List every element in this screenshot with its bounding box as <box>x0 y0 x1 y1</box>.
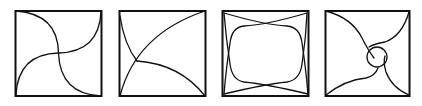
panel-1-arc-bottom <box>59 53 102 96</box>
panel-2 <box>120 11 206 96</box>
panel-3-curve-top-b <box>224 13 307 94</box>
panel-2-arc-from-top-left <box>120 16 137 61</box>
panel-1-arc-right <box>59 12 102 53</box>
panel-4-curve-top-right <box>369 12 409 47</box>
panel-4 <box>326 11 410 96</box>
panel-1-arc-top <box>16 11 59 53</box>
panel-2-arc-to-bottom-right <box>137 61 205 96</box>
panel-1 <box>16 11 102 96</box>
panel-4-central-loop <box>367 47 387 67</box>
panel-4-curve-bottom-left <box>326 68 378 95</box>
panel-3-curve-bottom-a <box>224 13 307 94</box>
panel-4-curve-top-left <box>326 11 374 58</box>
panel-3-curve-top-a <box>224 13 308 94</box>
panel-4-curve-bottom-right <box>384 56 409 95</box>
panel-3-curve-bottom-b <box>224 13 308 94</box>
panel-1-arc-left <box>16 53 59 95</box>
panel-3 <box>223 11 309 96</box>
tiling-figure <box>0 0 422 106</box>
